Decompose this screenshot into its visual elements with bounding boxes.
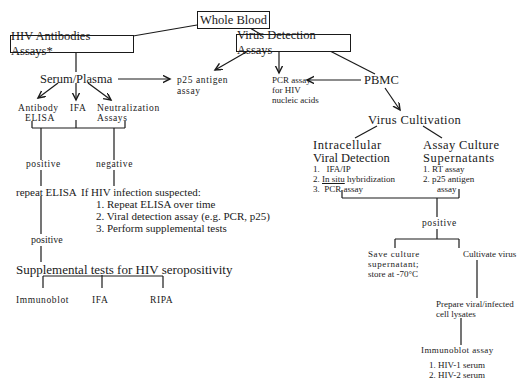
intracellular-title-1: Intracellular [313,139,382,152]
supplemental-tests-title: Supplemental tests for HIV seropositivit… [16,263,232,276]
save-supernatant-2: supernatant; [368,260,419,269]
suspected-item-1: 1. Repeat ELISA over time [96,199,215,210]
immunoblot-item-1: 1. HIV-1 serum [429,361,485,370]
neutralization-label-2: Assays [97,114,128,124]
pcr-assay-label-3: nucleic acids [272,96,319,105]
serum-plasma-label: Serum/Plasma [40,73,112,86]
cultivate-virus-label: Cultivate virus [463,250,516,259]
supplemental-ripa: RIPA [150,296,173,306]
antibody-elisa-label-2: ELISA [25,114,55,124]
p25-antigen-label-2: assay [177,87,201,97]
supernatants-item-2-cont: assay [437,185,457,194]
intracellular-title-2: Viral Detection [313,152,390,165]
supernatants-title-2: Supernatants [423,152,495,165]
whole-blood-box: Whole Blood [197,11,270,29]
culture-positive-label: positive [422,219,457,229]
immunoblot-item-2: 2. HIV-2 serum [429,371,485,380]
hiv-antibodies-assays-box: HIV Antibodies Assays* [10,35,134,53]
intracellular-item-2: 2. In situ hybridization [313,175,395,184]
virus-detection-assays-box: Virus Detection Assays [236,34,351,52]
virus-cultivation-label: Virus Cultivation [368,114,461,127]
immunoblot-assay-title: Immunoblot assay [421,346,494,355]
intracellular-item-1: 1. IFA/IP [313,165,351,174]
ifa-label: IFA [70,104,86,114]
supernatants-item-2: 2. p25 antigen [423,175,474,184]
save-supernatant-3: store at -70°C [368,270,418,279]
repeat-elisa-label: repeat ELISA [16,187,77,198]
suspected-item-2: 2. Viral detection assay (e.g. PCR, p25) [96,211,270,222]
supernatants-title-1: Assay Culture [423,139,499,152]
prepare-lysates-2: cell lysates [436,310,476,319]
supplemental-immunoblot: Immunoblot [16,296,69,306]
whole-blood-label: Whole Blood [200,13,267,28]
supplemental-ifa: IFA [92,296,108,306]
intracellular-item-3: 3. PCR assay [313,185,363,194]
pcr-assay-label-1: PCR assay [272,76,311,85]
suspected-item-3: 3. Perform supplemental tests [96,223,227,234]
virus-detection-assays-label: Virus Detection Assays [237,28,350,58]
save-supernatant-1: Save culture [368,250,420,259]
positive-label: positive [26,160,61,170]
pbmc-label: PBMC [364,74,399,87]
positive-2-label: positive [31,235,63,245]
p25-antigen-label-1: p25 antigen [177,76,228,86]
hiv-antibodies-assays-label: HIV Antibodies Assays* [11,29,133,59]
supernatants-item-1: 1. RT assay [423,165,465,174]
prepare-lysates-1: Prepare viral/infected [436,300,514,309]
pcr-assay-label-2: for HIV [272,86,301,95]
negative-label: negative [96,160,133,170]
suspected-heading: If HIV infection suspected: [81,187,201,198]
